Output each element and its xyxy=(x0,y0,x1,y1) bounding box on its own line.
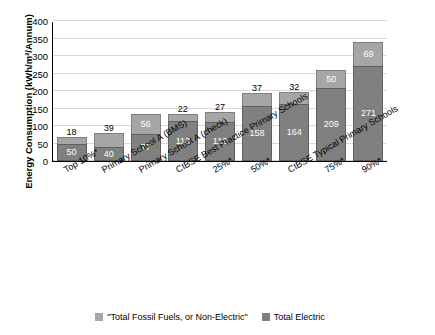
bar-value-label: 22 xyxy=(178,104,188,114)
bar-value-label: 50 xyxy=(67,148,77,157)
y-axis-tick-label: 0 xyxy=(43,156,48,167)
legend-item-electric: Total Electric xyxy=(262,312,325,322)
bar-value-label: 50 xyxy=(326,75,336,84)
x-axis-labels: Top 10%*Primary School A (BMS)Primary Sc… xyxy=(52,164,387,254)
y-axis-tick-label: 200 xyxy=(32,86,48,97)
legend-item-non-electric: "Total Fossil Fuels, or Non-Electric" xyxy=(95,312,247,322)
bar-value-label: 69 xyxy=(363,50,373,59)
y-axis-tick-label: 250 xyxy=(32,68,48,79)
chart-container: Energy Consumption (kWh/m²/Annum) 050100… xyxy=(0,0,420,335)
legend-label-non-electric: "Total Fossil Fuels, or Non-Electric" xyxy=(107,312,247,322)
bar-column: 69271 xyxy=(353,22,383,161)
bar-segment-non-electric: 50 xyxy=(316,70,346,88)
bar-column: 1850 xyxy=(57,22,87,161)
bar-column: 37158 xyxy=(242,22,272,161)
bar-value-label: 37 xyxy=(252,83,262,93)
bar-segment-non-electric: 69 xyxy=(353,42,383,66)
bar-value-label: 209 xyxy=(324,120,339,129)
bar-value-label: 27 xyxy=(215,102,225,112)
bar-column: 3940 xyxy=(94,22,124,161)
bar-segment-non-electric: 56 xyxy=(131,114,161,134)
y-axis-tick-label: 100 xyxy=(32,121,48,132)
y-axis-tick-label: 50 xyxy=(37,138,48,149)
bar-segment-non-electric: 37 xyxy=(242,93,272,106)
legend-swatch-icon xyxy=(95,313,103,321)
bar-value-label: 39 xyxy=(104,123,114,133)
bar-value-label: 18 xyxy=(67,127,77,137)
bar-segment-non-electric: 39 xyxy=(94,133,124,147)
legend-swatch-icon xyxy=(262,313,270,321)
bar-value-label: 40 xyxy=(104,150,114,159)
gridline: 400 xyxy=(53,20,387,21)
bar-value-label: 56 xyxy=(141,120,151,129)
y-axis-tick-label: 150 xyxy=(32,103,48,114)
bar-value-label: 164 xyxy=(287,128,302,137)
chart-legend: "Total Fossil Fuels, or Non-Electric" To… xyxy=(0,312,420,322)
y-axis-tick-label: 300 xyxy=(32,51,48,62)
bar-value-label: 32 xyxy=(289,82,299,92)
y-axis-tick-label: 350 xyxy=(32,33,48,44)
y-axis-tick-label: 400 xyxy=(32,16,48,27)
legend-label-electric: Total Electric xyxy=(274,312,325,322)
